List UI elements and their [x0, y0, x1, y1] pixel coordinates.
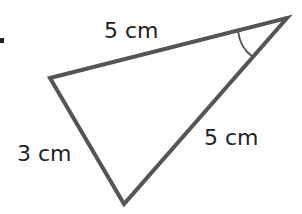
triangle-shape: [50, 18, 287, 204]
triangle-diagram: 5 cm 3 cm 5 cm: [0, 0, 302, 214]
left-side-label: 3 cm: [17, 143, 72, 165]
angle-arc-icon: [238, 31, 253, 57]
top-side-label: 5 cm: [104, 20, 159, 42]
right-side-label: 5 cm: [204, 127, 259, 149]
